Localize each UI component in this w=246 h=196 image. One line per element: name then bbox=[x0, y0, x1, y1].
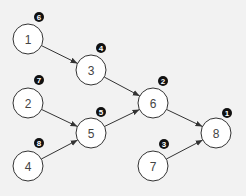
order-badge-label: 8 bbox=[37, 139, 42, 148]
edge-6-to-8 bbox=[167, 109, 203, 126]
order-badge-label: 1 bbox=[225, 109, 230, 118]
order-badge-label: 4 bbox=[99, 44, 104, 53]
order-badge-label: 5 bbox=[99, 108, 104, 117]
order-badge-label: 2 bbox=[161, 77, 166, 86]
order-badge-label: 6 bbox=[37, 13, 42, 22]
edge-7-to-8 bbox=[166, 140, 202, 159]
node-label: 1 bbox=[25, 33, 32, 47]
order-badge-label: 3 bbox=[162, 140, 167, 149]
node-3: 34 bbox=[76, 43, 106, 85]
edge-2-to-5 bbox=[42, 109, 78, 126]
node-label: 4 bbox=[25, 160, 32, 174]
node-5: 55 bbox=[76, 107, 106, 148]
node-2: 27 bbox=[13, 75, 44, 118]
order-badge-label: 7 bbox=[37, 76, 42, 85]
node-1: 16 bbox=[13, 12, 44, 54]
nodes-group: 1627344855627381 bbox=[13, 12, 232, 181]
node-label: 7 bbox=[150, 160, 157, 174]
node-label: 8 bbox=[213, 127, 220, 141]
node-label: 2 bbox=[25, 97, 32, 111]
node-label: 5 bbox=[88, 127, 95, 141]
node-label: 6 bbox=[150, 97, 157, 111]
edge-1-to-3 bbox=[41, 46, 77, 64]
edge-5-to-6 bbox=[105, 110, 140, 127]
node-8: 81 bbox=[201, 108, 232, 148]
graph-svg: 1627344855627381 bbox=[0, 0, 246, 196]
graph-diagram: 1627344855627381 bbox=[0, 0, 246, 196]
node-7: 73 bbox=[138, 139, 169, 181]
node-4: 48 bbox=[13, 138, 44, 181]
node-label: 3 bbox=[88, 64, 95, 78]
edge-3-to-6 bbox=[104, 77, 140, 96]
node-6: 62 bbox=[138, 76, 168, 118]
edges-group bbox=[41, 46, 202, 159]
edge-4-to-5 bbox=[41, 140, 77, 159]
